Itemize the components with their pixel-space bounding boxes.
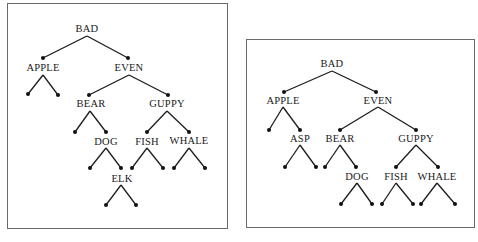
node-label-even: EVEN bbox=[364, 96, 393, 107]
tree-edge bbox=[174, 148, 189, 168]
node-dot bbox=[323, 165, 327, 169]
node-dot bbox=[161, 166, 165, 170]
node-dot bbox=[380, 202, 384, 206]
node-dot bbox=[145, 130, 149, 134]
tree-edge bbox=[121, 185, 136, 205]
node-dot bbox=[411, 202, 415, 206]
node-label-bad: BAD bbox=[76, 24, 99, 35]
node-dot bbox=[414, 128, 418, 132]
node-dot bbox=[374, 90, 378, 94]
node-dot bbox=[130, 166, 134, 170]
node-dot bbox=[172, 166, 176, 170]
node-dot bbox=[119, 166, 123, 170]
node-dot bbox=[203, 166, 207, 170]
tree-edge bbox=[43, 36, 87, 58]
node-dot bbox=[394, 165, 398, 169]
tree-edge bbox=[189, 148, 205, 168]
tree-edge bbox=[378, 107, 416, 130]
node-dot bbox=[339, 202, 343, 206]
tree-edge bbox=[269, 107, 283, 130]
node-dot bbox=[126, 56, 130, 60]
tree-edge bbox=[132, 148, 147, 168]
tree-edge bbox=[325, 145, 340, 167]
node-dot bbox=[87, 93, 91, 97]
node-dot bbox=[436, 165, 440, 169]
node-label-bear: BEAR bbox=[77, 99, 106, 110]
tree-edge bbox=[285, 145, 300, 167]
node-label-apple: APPLE bbox=[266, 96, 299, 107]
node-label-even: EVEN bbox=[115, 63, 144, 74]
node-label-guppy: GUPPY bbox=[398, 134, 433, 145]
node-dot bbox=[419, 202, 423, 206]
node-dot bbox=[267, 128, 271, 132]
node-dot bbox=[73, 130, 77, 134]
node-label-bear: BEAR bbox=[326, 134, 355, 145]
node-label-fish: FISH bbox=[135, 137, 159, 148]
tree-edge bbox=[340, 107, 378, 130]
tree-edge bbox=[90, 148, 106, 168]
tree-edge bbox=[87, 36, 128, 58]
tree-edge bbox=[421, 183, 437, 204]
node-dot bbox=[338, 128, 342, 132]
tree-edge bbox=[357, 183, 372, 204]
tree-edge bbox=[129, 75, 168, 95]
tree-edge bbox=[396, 183, 413, 204]
node-label-apple: APPLE bbox=[26, 63, 59, 74]
tree-edge bbox=[300, 145, 316, 167]
tree-edge bbox=[283, 107, 300, 130]
tree-edge bbox=[284, 71, 332, 92]
tree-edge bbox=[90, 111, 106, 132]
node-dot bbox=[283, 165, 287, 169]
tree-edge bbox=[340, 145, 356, 167]
node-dot bbox=[88, 166, 92, 170]
node-dot bbox=[187, 130, 191, 134]
node-label-whale: WHALE bbox=[418, 172, 457, 183]
tree-edge bbox=[332, 71, 376, 92]
node-label-asp: ASP bbox=[290, 134, 310, 145]
node-label-dog: DOG bbox=[345, 172, 368, 183]
node-dot bbox=[26, 92, 30, 96]
node-dot bbox=[41, 56, 45, 60]
tree-edge bbox=[28, 75, 43, 94]
tree-edge bbox=[396, 145, 416, 167]
node-dot bbox=[166, 93, 170, 97]
node-dot bbox=[370, 202, 374, 206]
tree-edge bbox=[437, 183, 455, 204]
tree-edge bbox=[416, 145, 438, 167]
node-dot bbox=[354, 165, 358, 169]
node-label-whale: WHALE bbox=[170, 136, 209, 147]
node-label-fish: FISH bbox=[384, 172, 408, 183]
node-dot bbox=[314, 165, 318, 169]
node-label-elk: ELK bbox=[111, 174, 132, 185]
tree-edge bbox=[89, 75, 129, 95]
tree-edge bbox=[75, 111, 90, 132]
node-dot bbox=[134, 203, 138, 207]
node-dot bbox=[104, 203, 108, 207]
tree-edge bbox=[341, 183, 357, 204]
node-dot bbox=[282, 90, 286, 94]
node-dot bbox=[298, 128, 302, 132]
tree-edge bbox=[167, 111, 189, 132]
node-label-bad: BAD bbox=[321, 59, 344, 70]
node-dot bbox=[104, 130, 108, 134]
node-label-dog: DOG bbox=[94, 137, 117, 148]
tree-edge bbox=[382, 183, 396, 204]
tree-edge bbox=[43, 75, 58, 95]
node-label-guppy: GUPPY bbox=[149, 99, 184, 110]
tree-edge bbox=[147, 111, 167, 132]
tree-edge bbox=[147, 148, 163, 168]
tree-diagrams-canvas bbox=[0, 0, 478, 242]
tree-edge bbox=[106, 148, 121, 168]
node-dot bbox=[453, 202, 457, 206]
tree-edge bbox=[106, 185, 121, 205]
node-dot bbox=[56, 93, 60, 97]
